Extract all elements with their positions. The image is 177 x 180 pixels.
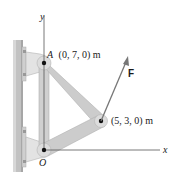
point-a-label: A (0, 7, 0) m: [46, 49, 101, 61]
force-arrow: [101, 56, 129, 121]
x-axis-label: x: [162, 144, 168, 155]
truss-diagram: y x O A (0, 7, 0) m (5, 3, 0) m F: [0, 0, 177, 180]
y-axis-label: y: [39, 11, 45, 22]
origin-label: O: [39, 157, 46, 168]
point-o: [42, 148, 46, 152]
point-a-name: A: [46, 49, 54, 60]
point-a-coords: (0, 7, 0) m: [59, 49, 101, 61]
point-b-coords: (5, 3, 0) m: [111, 115, 153, 127]
wall: [13, 40, 23, 172]
point-a: [42, 61, 46, 65]
force-label: F: [128, 68, 134, 79]
